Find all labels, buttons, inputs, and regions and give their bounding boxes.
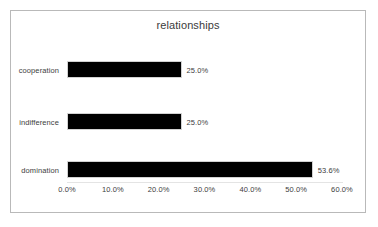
x-tick-label: 30.0% <box>194 185 216 194</box>
x-tick-label: 50.0% <box>285 185 307 194</box>
x-axis-baseline <box>67 182 343 183</box>
bar-value-indifference: 25.0% <box>187 117 209 126</box>
bar-indifference[interactable] <box>67 113 182 130</box>
bar-row: domination 53.6% <box>67 161 342 178</box>
x-tick-label: 40.0% <box>239 185 261 194</box>
bar-row: indifference 25.0% <box>67 113 342 130</box>
category-label-indifference: indifference <box>19 117 59 126</box>
x-axis: 0.0%10.0%20.0%30.0%40.0%50.0%60.0% <box>67 185 342 201</box>
category-label-domination: domination <box>21 165 59 174</box>
x-tick-label: 0.0% <box>58 185 76 194</box>
x-tick-label: 10.0% <box>102 185 124 194</box>
x-tick-label: 20.0% <box>148 185 170 194</box>
x-tick-label: 60.0% <box>331 185 353 194</box>
chart-frame: relationships cooperation 25.0% indiffer… <box>10 10 366 213</box>
category-label-cooperation: cooperation <box>19 65 59 74</box>
plot-area: cooperation 25.0% indifference 25.0% dom… <box>67 51 342 182</box>
bar-value-domination: 53.6% <box>318 165 340 174</box>
chart-title: relationships <box>11 19 365 31</box>
bar-value-cooperation: 25.0% <box>187 65 209 74</box>
bar-domination[interactable] <box>67 161 313 178</box>
bar-cooperation[interactable] <box>67 61 182 78</box>
bar-row: cooperation 25.0% <box>67 61 342 78</box>
